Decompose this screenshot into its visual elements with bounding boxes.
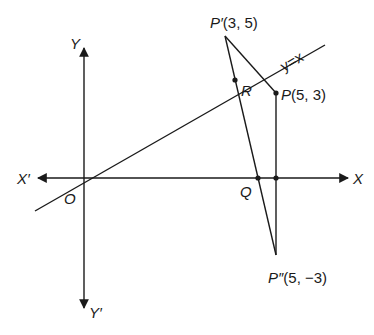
svg-text:P(5, 3): P(5, 3) bbox=[281, 86, 326, 103]
segment-p-prime-to-p-double-prime bbox=[225, 36, 276, 255]
label-p-prime: P′(3, 5) bbox=[210, 14, 258, 31]
point-r-dot bbox=[232, 77, 237, 82]
label-x-prime-axis: X′ bbox=[16, 170, 31, 187]
svg-text:P″(5, −3): P″(5, −3) bbox=[268, 269, 327, 286]
line-y-equals-x bbox=[35, 45, 325, 211]
label-p-name: P bbox=[281, 86, 291, 103]
point-p-dot bbox=[273, 90, 278, 95]
label-r: R bbox=[241, 82, 252, 99]
label-q: Q bbox=[240, 183, 252, 200]
label-x-axis: X bbox=[352, 170, 364, 187]
label-p-prime-coords: (3, 5) bbox=[223, 14, 258, 31]
point-x5-dot bbox=[273, 175, 278, 180]
label-origin: O bbox=[64, 190, 76, 207]
svg-text:P′(3, 5): P′(3, 5) bbox=[210, 14, 258, 31]
label-p-double-prime: P″(5, −3) bbox=[268, 269, 327, 286]
label-y-prime-axis: Y′ bbox=[89, 304, 103, 321]
label-p-coords: (5, 3) bbox=[291, 86, 326, 103]
label-p: P(5, 3) bbox=[281, 86, 326, 103]
label-p-double-prime-coords: (5, −3) bbox=[283, 269, 327, 286]
reflection-diagram: Y Y′ X′ X O y=x P′(3, 5) P(5, 3) P″(5, −… bbox=[0, 0, 374, 335]
point-q-dot bbox=[255, 175, 260, 180]
label-p-double-prime-name: P″ bbox=[268, 269, 284, 286]
label-y-axis: Y bbox=[70, 35, 81, 52]
